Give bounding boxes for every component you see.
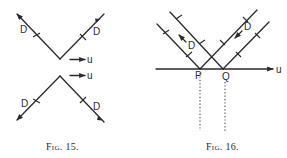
diagram-canvas: D D u D D u Fig. 15. u (0, 0, 287, 158)
lower-right-arm (60, 76, 104, 122)
figure-15: D D u D D u Fig. 15. (17, 14, 104, 152)
lower-left-D-label: D (21, 98, 28, 109)
P-right-line (200, 10, 257, 69)
right-D-label: D (244, 21, 251, 32)
fig16-caption: Fig. 16. (206, 141, 239, 152)
upper-v-wave: D D u (17, 14, 104, 65)
tick-p-right-lower (220, 40, 225, 45)
tick-q-left-lower (199, 40, 205, 44)
Q-left-line (170, 12, 223, 69)
figure-16: u D D P Q Fig. 16. (156, 10, 282, 152)
fig15-caption: Fig. 15. (46, 141, 79, 152)
left-D-label: D (188, 40, 195, 51)
upper-right-D-label: D (93, 26, 100, 37)
lower-right-D-label: D (93, 101, 100, 112)
tick-q-left-upper (176, 15, 182, 19)
upper-left-arm (17, 14, 60, 59)
point-P-label: P (195, 70, 202, 81)
upper-left-D-label: D (20, 24, 27, 35)
axis-velocity-label: u (276, 64, 282, 75)
lower-velocity-label: u (87, 70, 93, 81)
lower-v-wave: D D u (17, 70, 104, 122)
upper-velocity-label: u (87, 54, 93, 65)
left-D-arrow (179, 35, 186, 42)
point-Q-label: Q (222, 71, 230, 82)
